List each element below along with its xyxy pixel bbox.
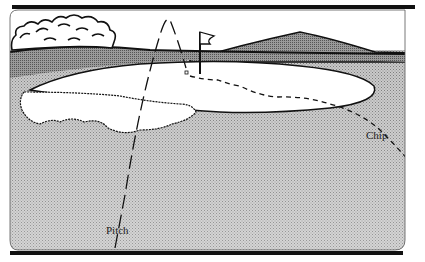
bottom-rule <box>10 251 403 255</box>
golf-diagram: Pitch Chip <box>0 0 425 262</box>
ball <box>185 71 188 74</box>
pitch-label: Pitch <box>106 224 129 236</box>
diagram-canvas: Pitch Chip <box>0 0 425 262</box>
trees <box>12 15 116 50</box>
chip-label: Chip <box>366 129 388 141</box>
top-rule <box>12 5 415 9</box>
